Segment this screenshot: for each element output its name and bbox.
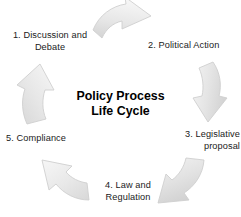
arrow-right-down-icon — [193, 62, 227, 122]
step-label-1-discussion-and-debate: 1. Discussion and Debate — [2, 30, 98, 53]
policy-process-life-cycle-diagram: 1. Discussion and Debate 2. Political Ac… — [0, 0, 241, 217]
step-label-4-law-and-regulation: 4. Law and Regulation — [88, 180, 168, 203]
arrow-left-up-icon — [17, 64, 54, 124]
step-label-2-political-action: 2. Political Action — [148, 40, 240, 52]
diagram-center-title: Policy Process Life Cycle — [54, 89, 187, 119]
step-label-5-compliance: 5. Compliance — [6, 133, 88, 145]
step-label-3-legislative-proposal: 3. Legislative proposal — [168, 129, 240, 152]
arrow-bottom-left-icon — [42, 160, 89, 200]
arrow-top-right-icon — [93, 0, 151, 38]
